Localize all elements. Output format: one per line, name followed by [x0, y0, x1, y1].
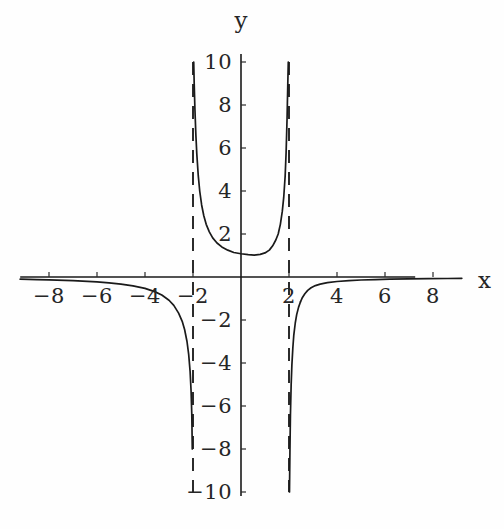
- x-tick-label: 4: [330, 284, 344, 308]
- y-tick-label: −8: [200, 437, 232, 461]
- x-tick-label: −4: [129, 284, 161, 308]
- function-plot: −8−6−4−22468−10−8−6−4−2246810 x y: [0, 0, 504, 529]
- y-tick-label: 2: [218, 222, 232, 246]
- x-tick-label: 8: [426, 284, 440, 308]
- y-tick-label: 10: [204, 50, 232, 74]
- plot-background: [0, 0, 504, 529]
- plot-container: −8−6−4−22468−10−8−6−4−2246810 x y: [0, 0, 504, 529]
- x-tick-label: −2: [177, 284, 209, 308]
- x-tick-label: −6: [81, 284, 113, 308]
- x-tick-label: 2: [282, 284, 296, 308]
- y-tick-label: −2: [200, 308, 232, 332]
- x-axis-label: x: [478, 267, 491, 293]
- x-tick-label: 6: [378, 284, 392, 308]
- y-tick-label: −10: [186, 480, 232, 504]
- y-tick-label: 8: [218, 93, 232, 117]
- y-axis-label: y: [234, 7, 248, 33]
- y-tick-label: −4: [200, 351, 232, 375]
- y-tick-label: −6: [200, 394, 232, 418]
- x-tick-label: −8: [33, 284, 65, 308]
- y-tick-label: 6: [218, 136, 232, 160]
- y-tick-label: 4: [218, 179, 232, 203]
